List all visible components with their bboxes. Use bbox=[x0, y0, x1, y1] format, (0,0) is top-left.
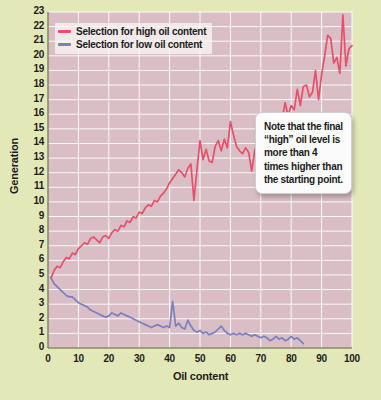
y-axis-tick: 12 bbox=[22, 166, 44, 177]
x-axis-tick: 20 bbox=[97, 353, 121, 364]
y-axis-tick: 15 bbox=[22, 122, 44, 133]
y-axis-tick: 22 bbox=[22, 20, 44, 31]
y-axis-tick: 1 bbox=[22, 326, 44, 337]
y-axis-tick: 0 bbox=[22, 341, 44, 352]
legend-swatch-high bbox=[58, 30, 71, 33]
chart-plot-area bbox=[0, 0, 381, 400]
y-axis-tick: 2 bbox=[22, 312, 44, 323]
y-axis-tick: 13 bbox=[22, 151, 44, 162]
annotation-callout: Note that the final “high” oil level is … bbox=[255, 112, 352, 194]
y-axis-tick: 20 bbox=[22, 49, 44, 60]
x-axis-tick: 60 bbox=[218, 353, 242, 364]
x-axis-label: Oil content bbox=[48, 370, 353, 382]
y-axis-tick: 8 bbox=[22, 224, 44, 235]
y-axis-tick: 4 bbox=[22, 283, 44, 294]
x-axis-tick: 40 bbox=[158, 353, 182, 364]
legend-swatch-low bbox=[58, 43, 71, 46]
x-axis-tick: 30 bbox=[127, 353, 151, 364]
y-axis-tick: 7 bbox=[22, 239, 44, 250]
chart-legend: Selection for high oil content Selection… bbox=[55, 23, 212, 54]
y-axis-label: Generation bbox=[8, 126, 20, 206]
y-axis-tick: 5 bbox=[22, 268, 44, 279]
y-axis-tick: 3 bbox=[22, 297, 44, 308]
legend-label-low: Selection for low oil content bbox=[76, 39, 202, 50]
y-axis-tick: 9 bbox=[22, 210, 44, 221]
y-axis-tick: 14 bbox=[22, 136, 44, 147]
y-axis-tick: 19 bbox=[22, 63, 44, 74]
y-axis-tick: 23 bbox=[22, 5, 44, 16]
x-axis-tick: 50 bbox=[188, 353, 212, 364]
y-axis-tick: 16 bbox=[22, 107, 44, 118]
x-axis-tick: 70 bbox=[249, 353, 273, 364]
x-axis-tick: 80 bbox=[279, 353, 303, 364]
y-axis-tick: 18 bbox=[22, 78, 44, 89]
y-axis-tick: 6 bbox=[22, 253, 44, 264]
x-axis-tick: 90 bbox=[310, 353, 334, 364]
y-axis-tick: 10 bbox=[22, 195, 44, 206]
oil-content-generation-chart: Generation Oil content Selection for hig… bbox=[0, 0, 381, 400]
legend-item-low: Selection for low oil content bbox=[58, 38, 206, 51]
y-axis-tick: 11 bbox=[22, 180, 44, 191]
x-axis-tick: 0 bbox=[36, 353, 60, 364]
y-axis-tick: 17 bbox=[22, 93, 44, 104]
x-axis-tick: 100 bbox=[340, 353, 364, 364]
y-axis-tick: 21 bbox=[22, 34, 44, 45]
legend-label-high: Selection for high oil content bbox=[76, 26, 206, 37]
x-axis-tick: 10 bbox=[66, 353, 90, 364]
legend-item-high: Selection for high oil content bbox=[58, 25, 206, 38]
